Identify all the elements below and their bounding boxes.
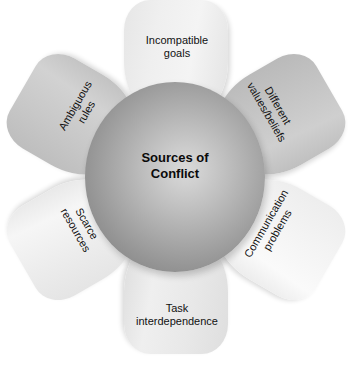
center-label: Sources of Conflict <box>85 150 265 182</box>
center-sphere: Sources of Conflict <box>85 82 265 272</box>
sources-of-conflict-diagram: Sources of Conflict Incompatible goals D… <box>0 0 353 365</box>
